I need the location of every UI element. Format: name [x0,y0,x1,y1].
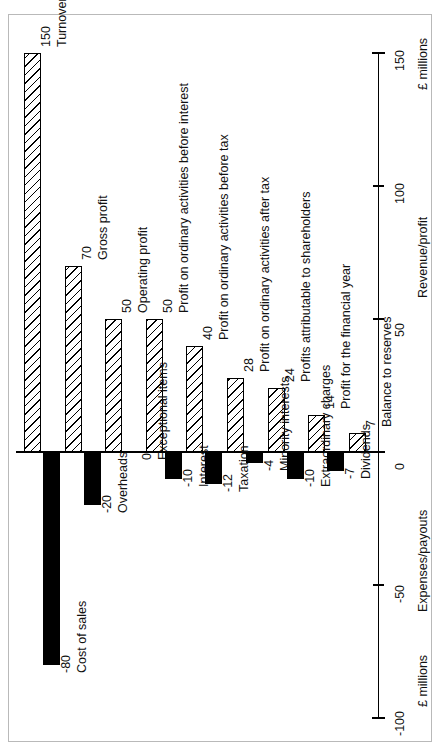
axis-tick-minus-50 [373,584,384,585]
bar-value-label: 40 [201,326,215,340]
bar-value-label: 50 [161,299,175,313]
bar-negative[interactable] [287,452,304,479]
axis-num-0: 0 [393,463,407,470]
axis-tick-100 [373,185,384,186]
axis-cap-minus-100 [372,717,385,719]
bar-positive[interactable] [24,53,41,452]
axis-units-upper: £ millions [416,38,430,90]
bar-negative[interactable] [165,452,182,479]
bar-negative[interactable] [327,452,344,471]
bar-category-label: Turnover [55,0,69,47]
bar-negative[interactable] [84,452,101,505]
axis-num-50: 50 [393,323,407,337]
axis-num-minus-100: -100 [393,711,407,736]
bar-value-label: -80 [59,655,73,673]
bar-value-label: -7 [343,467,357,478]
bar-category-label: Balance to reserves [380,317,394,427]
bar-value-label: -10 [303,469,317,487]
bar-positive[interactable] [186,346,203,452]
axis-line-revenue [378,53,379,452]
bar-negative[interactable] [43,452,60,665]
bar-category-label: Exceptional items [156,362,170,460]
bar-category-label: Profit on ordinary activities before int… [177,83,191,313]
bar-value-label: -20 [100,495,114,513]
bar-value-label: -12 [221,474,235,492]
axis-num-minus-50: -50 [393,585,407,603]
bar-positive[interactable] [105,319,122,452]
bar-value-label: -10 [181,469,195,487]
axis-num-100: 100 [393,183,407,204]
bar-value-label: 0 [140,453,154,460]
bar-value-label: -4 [262,460,276,471]
axis-units-lower: £ millions [416,655,430,707]
bar-category-label: Profits attributable to shareholders [299,192,313,382]
bar-value-label: 150 [39,26,53,47]
axis-title-revenue: Revenue/profit [416,216,430,297]
chart-page: 150Turnover70Gross profit50Operating pro… [0,0,442,755]
bar-positive[interactable] [227,378,244,452]
bar-category-label: Operating profit [136,227,150,313]
bar-category-label: Overheads [116,452,130,513]
axis-tick-50 [373,318,384,319]
bar-value-label: 50 [120,299,134,313]
bar-category-label: Profit for the financial year [339,264,353,409]
bar-value-label: 28 [242,358,256,372]
bar-negative[interactable] [205,452,222,484]
bar-value-label: 70 [80,246,94,260]
bar-negative[interactable] [246,452,263,463]
axis-num-150: 150 [393,50,407,71]
bar-category-label: Gross profit [96,195,110,260]
axis-title-expenses: Expenses/payouts [416,509,430,611]
bar-category-label: Profit on ordinary activities before tax [217,134,231,340]
bar-category-label: Cost of sales [75,601,89,673]
bar-positive[interactable] [65,266,82,452]
bar-category-label: Profit on ordinary activities after tax [258,176,272,371]
axis-cap-150 [372,52,385,54]
waterfall-chart: 150Turnover70Gross profit50Operating pro… [0,0,442,755]
